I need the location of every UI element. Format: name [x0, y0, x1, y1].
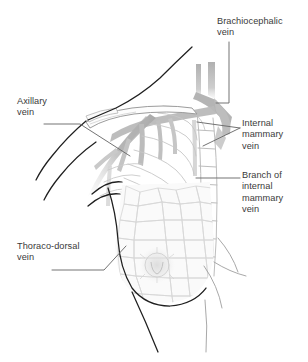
anatomy-figure: Brachiocephalic vein Axillary vein Inter…	[0, 0, 308, 362]
axillary-vein-label: Axillary vein	[17, 96, 47, 119]
branch-of-internal-mammary-vein-label: Branch of internal mammary vein	[242, 170, 283, 216]
areola-and-nipple	[139, 247, 175, 283]
brachiocephalic-vein-label: Brachiocephalic vein	[217, 16, 283, 39]
leader-brachiocephalic	[216, 42, 229, 103]
internal-mammary-vein-label: Internal mammary vein	[242, 118, 283, 152]
thoraco-dorsal-vein-label: Thoraco-dorsal vein	[17, 241, 80, 264]
breast	[115, 182, 214, 310]
